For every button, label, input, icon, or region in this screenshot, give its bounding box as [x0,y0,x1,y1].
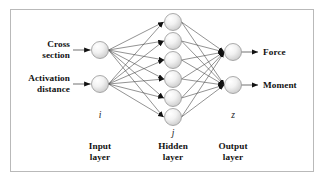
node-hidden-2 [165,33,182,50]
layer-label-hidden-line2: layer [163,152,183,162]
layer-index-i: i [85,110,115,120]
layer-label-input-line1: Input [89,141,111,151]
output-label-force: Force [263,47,286,58]
layer-label-hidden-line1: Hidden [158,141,188,151]
node-output-2 [225,77,242,94]
edges-input-to-hidden [109,22,165,117]
node-hidden-5 [165,90,182,107]
layer-label-input: Input layer [70,141,130,162]
layer-index-j: j [158,128,188,138]
input-layer-nodes [92,42,109,93]
input-label-activation-distance-line1: Activation [28,73,70,83]
node-input-1 [92,42,109,59]
node-hidden-6 [165,109,182,126]
layer-index-z: z [218,110,248,120]
layer-label-output-line2: layer [223,152,243,162]
node-hidden-4 [165,71,182,88]
input-label-activation-distance: Activation distance [8,73,70,94]
node-input-2 [92,76,109,93]
output-layer-nodes [225,44,242,94]
input-label-cross-section: Cross section [14,39,70,60]
layer-label-hidden: Hidden layer [143,141,203,162]
node-output-1 [225,44,242,61]
node-hidden-1 [165,14,182,31]
input-arrows [73,50,91,84]
input-label-cross-section-line1: Cross [47,39,70,49]
neural-network-figure: Cross section Activation distance Force … [0,0,330,183]
hidden-layer-nodes [165,14,182,126]
input-label-cross-section-line2: section [42,50,70,60]
node-hidden-3 [165,52,182,69]
edges-hidden-to-output [182,22,225,117]
layer-label-input-line2: layer [90,152,110,162]
layer-label-output: Output layer [203,141,263,162]
output-arrows [242,52,259,85]
output-label-moment: Moment [263,80,297,91]
layer-label-output-line1: Output [218,141,247,151]
input-label-activation-distance-line2: distance [37,84,70,94]
